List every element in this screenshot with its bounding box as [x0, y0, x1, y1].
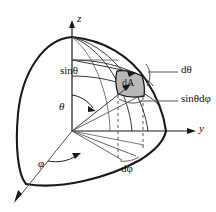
sphere-outline-equator-arc — [26, 131, 166, 186]
sin-theta-label: sinθ — [60, 65, 78, 76]
sin-theta-d-phi-label: sinθdφ — [181, 93, 211, 104]
d-theta-label: dθ — [181, 64, 192, 75]
area-element-label: dA — [122, 78, 134, 88]
phi-angle-label: φ — [38, 158, 44, 169]
theta-angle-label: θ — [59, 101, 64, 112]
y-axis-arrowhead — [187, 128, 196, 134]
equatorial-ray-3 — [72, 131, 144, 145]
phi-angle-arc — [48, 156, 76, 162]
meridian-arc-3 — [72, 37, 110, 131]
z-axis-arrowhead — [69, 20, 75, 28]
theta-angle-arc — [72, 95, 93, 108]
d-phi-label: dφ — [121, 163, 133, 174]
wedge-ray-lower — [72, 96, 140, 131]
y-axis-label: y — [199, 123, 204, 134]
x-axis-arrowhead — [14, 190, 22, 203]
equatorial-ray-2 — [72, 131, 136, 156]
sin-theta-radius-line — [72, 60, 133, 72]
figure-canvas — [0, 0, 216, 212]
spherical-coordinate-figure: z y sinθ θ φ dA dθ sinθdφ dφ — [0, 0, 216, 212]
equatorial-ray-1 — [72, 131, 122, 160]
d-phi-bracket — [120, 157, 139, 161]
phi-angle-arrowhead — [72, 153, 81, 159]
z-axis-label: z — [77, 13, 81, 24]
radius-vector-to-patch — [72, 87, 128, 131]
x-axis — [19, 131, 72, 197]
